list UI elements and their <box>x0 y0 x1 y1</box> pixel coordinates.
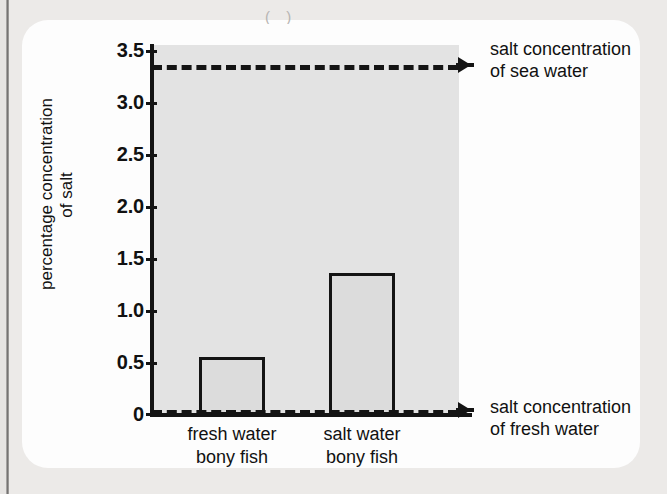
y-tick-1.0 <box>146 310 157 313</box>
y-tick-label-0.5: 0.5 <box>96 351 144 374</box>
y-tick-label-0: 0 <box>96 403 144 426</box>
annotation-sea-water-line-2: of sea water <box>490 60 631 82</box>
annotation-sea-water-line-1: salt concentration <box>490 38 631 60</box>
y-tick-2.0 <box>146 206 157 209</box>
y-tick-label-3.5: 3.5 <box>96 39 144 62</box>
y-tick-label-1.5: 1.5 <box>96 247 144 270</box>
y-axis-title: percentage concentration of salt <box>37 100 77 290</box>
x-category-label-salt-water: salt water bony fish <box>272 423 452 469</box>
annotation-fresh-water-line-1: salt concentration <box>490 396 631 418</box>
reference-arrow-sea-water <box>458 57 471 73</box>
annotation-fresh-water: salt concentration of fresh water <box>490 396 631 440</box>
y-axis-title-line-2: of salt <box>57 100 77 290</box>
y-tick-2.5 <box>146 154 157 157</box>
y-tick-3.0 <box>146 102 157 105</box>
y-tick-label-2.0: 2.0 <box>96 195 144 218</box>
reference-line-fresh-water <box>152 410 458 415</box>
bar-salt-water-bony-fish[interactable] <box>329 273 395 415</box>
bar-fresh-water-bony-fish[interactable] <box>199 357 265 415</box>
y-axis-title-line-1: percentage concentration <box>37 100 57 290</box>
y-tick-label-2.5: 2.5 <box>96 143 144 166</box>
reference-line-sea-water <box>152 65 458 70</box>
y-tick-label-1.0: 1.0 <box>96 299 144 322</box>
annotation-fresh-water-line-2: of fresh water <box>490 418 631 440</box>
y-tick-1.5 <box>146 258 157 261</box>
x-category-label-salt-water-line-2: bony fish <box>272 446 452 469</box>
annotation-sea-water: salt concentration of sea water <box>490 38 631 82</box>
x-category-label-salt-water-line-1: salt water <box>272 423 452 446</box>
y-tick-label-3.0: 3.0 <box>96 91 144 114</box>
y-tick-3.5 <box>146 50 157 53</box>
reference-arrow-fresh-water <box>458 402 471 418</box>
y-tick-0.5 <box>146 362 157 365</box>
bar-chart: percentage concentration of salt 3.5 3.0… <box>0 0 667 494</box>
